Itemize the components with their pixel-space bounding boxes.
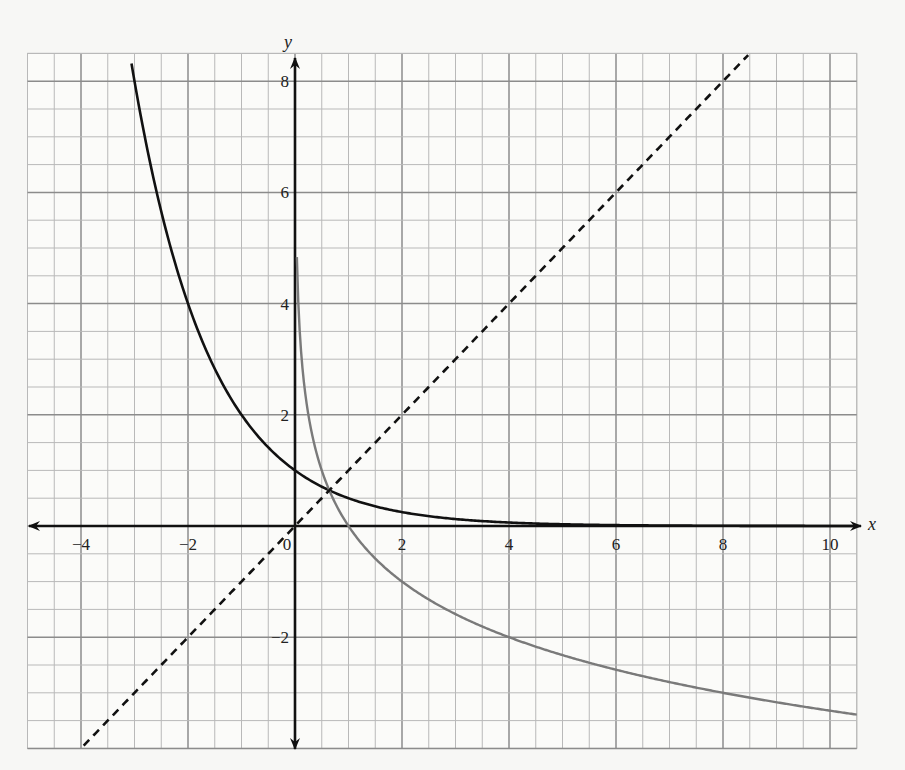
x-tick-label: −4 xyxy=(72,535,91,554)
x-tick-label: 10 xyxy=(822,535,839,554)
x-tick-label: 0 xyxy=(283,535,292,554)
grid xyxy=(28,53,857,748)
plot-area xyxy=(28,53,857,748)
chart: −4−20246810−22468 x y xyxy=(0,0,905,770)
y-axis-label: y xyxy=(282,32,292,52)
y-tick-label: 8 xyxy=(281,72,290,91)
y-tick-label: 6 xyxy=(281,183,290,202)
x-tick-label: 4 xyxy=(505,535,514,554)
y-tick-label: −2 xyxy=(271,628,289,647)
y-tick-label: 4 xyxy=(281,295,290,314)
x-tick-label: 6 xyxy=(612,535,621,554)
x-axis-label: x xyxy=(867,514,876,534)
x-tick-label: −2 xyxy=(179,535,197,554)
y-tick-label: 2 xyxy=(281,406,290,425)
x-tick-label: 2 xyxy=(398,535,407,554)
x-tick-label: 8 xyxy=(719,535,728,554)
